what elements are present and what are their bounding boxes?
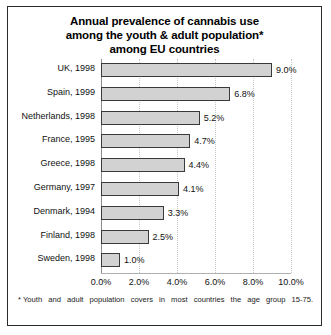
bar-value-label: 9.0% — [276, 65, 297, 75]
bar-value-label: 1.0% — [124, 255, 145, 265]
plot-area: UK, 19989.0%Spain, 19996.8%Netherlands, … — [8, 59, 321, 283]
bar-track: 4.1% — [101, 182, 321, 196]
category-label: Sweden, 1998 — [0, 253, 95, 263]
bar-row: France, 19954.7% — [8, 130, 321, 154]
chart-figure: Annual prevalence of cannabis use among … — [7, 6, 322, 326]
x-tick-label: 6.0% — [205, 277, 226, 287]
bar-track: 5.2% — [101, 111, 321, 125]
bar[interactable] — [101, 253, 120, 267]
bar-row: Finland, 19982.5% — [8, 226, 321, 250]
bar-track: 3.3% — [101, 206, 321, 220]
bar-row: Sweden, 19981.0% — [8, 249, 321, 273]
category-label: France, 1995 — [0, 134, 95, 144]
bar-track: 9.0% — [101, 63, 321, 77]
category-label: Greece, 1998 — [0, 158, 95, 168]
bar-track: 2.5% — [101, 230, 321, 244]
bar[interactable] — [101, 63, 272, 77]
bar-value-label: 2.5% — [153, 232, 174, 242]
bar[interactable] — [101, 111, 200, 125]
x-tick-label: 0.0% — [91, 277, 112, 287]
x-tick-label: 4.0% — [167, 277, 188, 287]
chart-title: Annual prevalence of cannabis use among … — [18, 14, 311, 56]
bar-value-label: 4.1% — [183, 184, 204, 194]
bar[interactable] — [101, 182, 179, 196]
bar-rows: UK, 19989.0%Spain, 19996.8%Netherlands, … — [8, 59, 321, 273]
bar-value-label: 3.3% — [168, 208, 189, 218]
x-tick-label: 10.0% — [278, 277, 304, 287]
category-label: Denmark, 1994 — [0, 206, 95, 216]
bar[interactable] — [101, 206, 164, 220]
category-label: Germany, 1997 — [0, 182, 95, 192]
bar[interactable] — [101, 87, 230, 101]
bar-row: Netherlands, 19985.2% — [8, 107, 321, 131]
bar-value-label: 4.7% — [194, 136, 215, 146]
bar[interactable] — [101, 134, 190, 148]
x-tick-label: 2.0% — [129, 277, 150, 287]
bar-row: Denmark, 19943.3% — [8, 202, 321, 226]
bar-value-label: 6.8% — [234, 89, 255, 99]
chart-title-line-2: among the youth & adult population* — [18, 28, 311, 42]
bar-track: 4.7% — [101, 134, 321, 148]
footnote-marker: * — [18, 295, 21, 304]
bar[interactable] — [101, 158, 185, 172]
bar-value-label: 4.4% — [189, 160, 210, 170]
bar-track: 4.4% — [101, 158, 321, 172]
chart-title-line-1: Annual prevalence of cannabis use — [18, 14, 311, 28]
bar-row: Spain, 19996.8% — [8, 83, 321, 107]
category-label: Spain, 1999 — [0, 87, 95, 97]
footnote: *Youth and adult population covers in mo… — [18, 295, 313, 305]
bar[interactable] — [101, 230, 149, 244]
bar-track: 6.8% — [101, 87, 321, 101]
x-axis-ticks: 0.0%2.0%4.0%6.0%8.0%10.0% — [101, 277, 291, 293]
bar-track: 1.0% — [101, 253, 321, 267]
bar-value-label: 5.2% — [204, 113, 225, 123]
chart-title-line-3: among EU countries — [18, 42, 311, 56]
category-label: Finland, 1998 — [0, 230, 95, 240]
x-tick-label: 8.0% — [243, 277, 264, 287]
footnote-text: Youth and adult population covers in mos… — [23, 295, 313, 304]
category-label: UK, 1998 — [0, 63, 95, 73]
bar-row: UK, 19989.0% — [8, 59, 321, 83]
bar-row: Greece, 19984.4% — [8, 154, 321, 178]
bar-row: Germany, 19974.1% — [8, 178, 321, 202]
category-label: Netherlands, 1998 — [0, 111, 95, 121]
